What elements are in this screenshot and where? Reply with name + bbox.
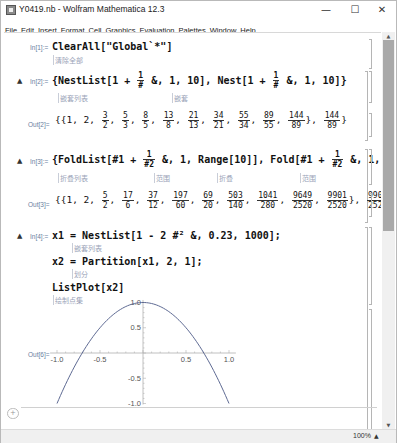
new-cell-bar[interactable]: +	[7, 407, 379, 419]
cell-label-in1: In[1]:=	[30, 44, 48, 51]
cell-code-in2[interactable]: {NestList[1 + 1# &, 1, 10], Nest[1 + 1# …	[52, 71, 347, 90]
code-hint-range: 范围	[300, 173, 316, 183]
close-button[interactable]: ✕	[370, 2, 394, 18]
vertical-scrollbar[interactable]: ▲ ▼	[382, 32, 395, 429]
code-hint-clearall: 清除全部	[53, 55, 83, 65]
fraction: 1#	[273, 71, 280, 90]
output-harmonic-sums: {{1, 2, 52, 176, 3712, 19760, 6920, 5031…	[55, 191, 381, 210]
input-cell-3[interactable]: ▲ In[3]:= {FoldList[#1 + 1#2 &, 1, Range…	[4, 147, 381, 187]
code-hint-fold: 折叠	[217, 173, 233, 183]
svg-text:-1.0: -1.0	[51, 355, 64, 364]
code-hint-nest: 嵌套	[172, 93, 188, 103]
cell-label-in2: In[2]:=	[30, 78, 48, 85]
mathematica-window: Y0419.nb - Wolfram Mathematica 12.3 — ☐ …	[0, 0, 397, 443]
output-fib-ratios: {{1, 2, 32, 53, 85, 138, 2113, 3421, 553…	[55, 111, 347, 130]
minimize-button[interactable]: —	[314, 2, 338, 18]
input-cell-1[interactable]: In[1]:= ClearAll["Global`*"] 清除全部	[4, 39, 381, 69]
list-plot[interactable]: -1.0-0.50.51.01.00.5-0.5-1.0	[4, 225, 364, 429]
cell-bracket[interactable]	[369, 39, 372, 69]
scroll-up-arrow-icon[interactable]: ▲	[382, 32, 395, 40]
plot-axes: -1.0-0.50.51.01.00.5-0.5-1.0	[50, 298, 236, 408]
window-title: Y0419.nb - Wolfram Mathematica 12.3	[19, 4, 164, 14]
fold-caret-icon[interactable]: ▲	[17, 157, 22, 165]
cell-label-out3: Out[3]=	[28, 201, 50, 208]
svg-text:-0.5: -0.5	[128, 374, 141, 383]
code-hint-nestlist: 嵌套列表	[58, 93, 88, 103]
code-hint-range: 范围	[154, 173, 170, 183]
cell-bracket[interactable]	[369, 149, 372, 185]
output-cell-2[interactable]: Out[2]= {{1, 2, 32, 53, 85, 138, 2113, 3…	[4, 109, 381, 143]
scroll-thumb[interactable]	[383, 40, 394, 231]
notebook-area[interactable]: In[1]:= ClearAll["Global`*"] 清除全部 ▲ In[2…	[4, 32, 381, 429]
svg-text:0.5: 0.5	[131, 323, 141, 332]
mathematica-app-icon	[6, 5, 16, 15]
zoom-level[interactable]: 100%	[353, 432, 371, 439]
output-cell-3[interactable]: Out[3]= {{1, 2, 52, 176, 3712, 19760, 69…	[4, 189, 381, 223]
cell-code-in1[interactable]: ClearAll["Global`*"]	[52, 41, 172, 52]
cell-bracket[interactable]	[369, 113, 372, 137]
input-cell-2[interactable]: ▲ In[2]:= {NestList[1 + 1# &, 1, 10], Ne…	[4, 69, 381, 105]
scroll-down-arrow-icon[interactable]: ▼	[382, 421, 395, 429]
input-cell-4[interactable]: ▲ In[4]:= x1 = NestList[1 - 2 #² &, 0.23…	[4, 225, 381, 429]
group-bracket[interactable]	[365, 227, 368, 429]
cell-bracket[interactable]	[369, 193, 372, 217]
svg-text:1.0: 1.0	[224, 355, 234, 364]
cell-bracket[interactable]	[369, 71, 372, 103]
zoom-menu-arrow-icon[interactable]: ▲	[374, 432, 379, 439]
fold-caret-icon[interactable]: ▲	[17, 77, 22, 85]
fraction: 1#	[137, 71, 144, 90]
svg-text:-0.5: -0.5	[94, 355, 107, 364]
cell-label-out2: Out[2]=	[28, 121, 50, 128]
code-hint-foldlist: 折叠列表	[58, 173, 88, 183]
add-cell-button[interactable]: +	[7, 408, 19, 419]
cell-insertion-line	[21, 407, 377, 408]
maximize-button[interactable]: ☐	[343, 2, 367, 18]
status-bar: 100% ▲	[1, 429, 396, 443]
cell-label-in3: In[3]:=	[30, 158, 48, 165]
title-bar: Y0419.nb - Wolfram Mathematica 12.3 — ☐ …	[1, 1, 396, 19]
cell-bracket[interactable]	[369, 227, 372, 305]
svg-text:0.5: 0.5	[181, 355, 191, 364]
menu-bar: FileEditInsertFormatCellGraphicsEvaluati…	[1, 18, 396, 31]
cell-code-in3[interactable]: {FoldList[#1 + 1#2 &, 1, Range[10]], Fol…	[52, 150, 381, 169]
